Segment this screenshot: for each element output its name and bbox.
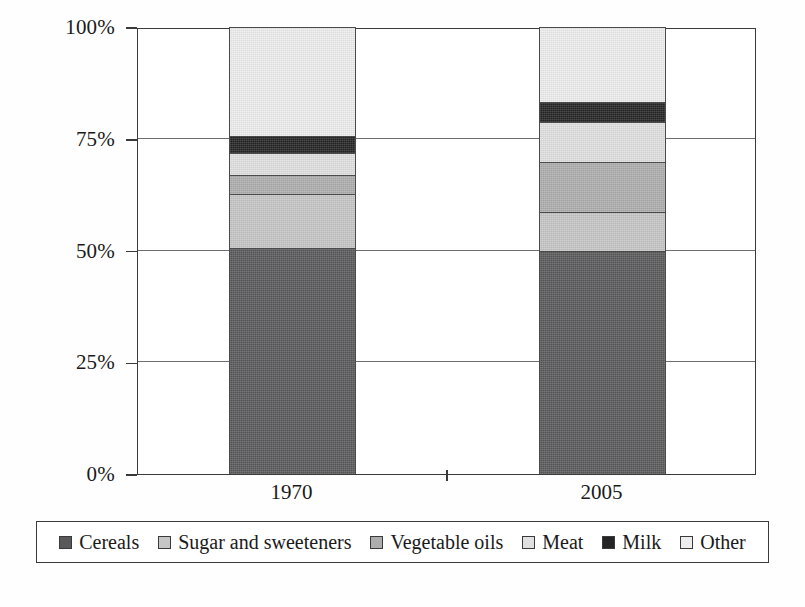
x-tick-label-1970: 1970 — [192, 481, 391, 503]
legend-swatch-icon — [59, 536, 72, 549]
y-axis: 0%25%50%75%100% — [0, 0, 137, 503]
bar-segment-1970-meat[interactable] — [229, 153, 356, 175]
legend-swatch-icon — [680, 536, 693, 549]
legend-swatch-icon — [158, 536, 171, 549]
bar-segment-2005-other[interactable] — [539, 27, 666, 102]
legend-item-cereals[interactable]: Cereals — [59, 532, 139, 552]
bar-1970[interactable] — [229, 27, 356, 474]
legend-swatch-icon — [602, 536, 615, 549]
bar-segment-1970-cereals[interactable] — [229, 248, 356, 474]
y-tick-mark-100 — [126, 27, 137, 29]
y-tick-label-100: 100% — [65, 17, 115, 38]
legend-label: Vegetable oils — [390, 532, 503, 552]
y-tick-label-25: 25% — [76, 352, 115, 373]
legend-label: Sugar and sweeteners — [178, 532, 351, 552]
bar-segment-2005-milk[interactable] — [539, 102, 666, 122]
legend-swatch-icon — [522, 536, 535, 549]
legend-label: Other — [700, 532, 746, 552]
legend-label: Cereals — [79, 532, 139, 552]
plot-area — [137, 28, 756, 475]
bar-segment-2005-cereals[interactable] — [539, 251, 666, 474]
x-tick-label-2005: 2005 — [502, 481, 701, 503]
bar-segment-2005-vegetable-oils[interactable] — [539, 162, 666, 212]
bar-segment-1970-other[interactable] — [229, 27, 356, 136]
x-axis-center-tick — [446, 470, 448, 481]
x-axis: 19702005 — [137, 481, 756, 511]
legend-item-milk[interactable]: Milk — [602, 532, 661, 552]
bar-segment-1970-sugar-and-sweeteners[interactable] — [229, 194, 356, 248]
legend-item-meat[interactable]: Meat — [522, 532, 583, 552]
y-tick-label-75: 75% — [76, 129, 115, 150]
bar-2005[interactable] — [539, 27, 666, 474]
y-tick-label-50: 50% — [76, 241, 115, 262]
y-tick-mark-50 — [126, 251, 137, 253]
legend-item-sugar-and-sweeteners[interactable]: Sugar and sweeteners — [158, 532, 351, 552]
bar-segment-1970-milk[interactable] — [229, 136, 356, 153]
chart-legend: CerealsSugar and sweetenersVegetable oil… — [36, 521, 769, 563]
bar-segment-2005-sugar-and-sweeteners[interactable] — [539, 212, 666, 251]
y-tick-mark-25 — [126, 363, 137, 365]
bar-segment-2005-meat[interactable] — [539, 122, 666, 162]
legend-label: Milk — [622, 532, 661, 552]
y-tick-mark-75 — [126, 139, 137, 141]
legend-label: Meat — [542, 532, 583, 552]
y-tick-label-0: 0% — [87, 464, 115, 485]
legend-swatch-icon — [370, 536, 383, 549]
legend-item-other[interactable]: Other — [680, 532, 746, 552]
y-tick-mark-0 — [126, 474, 137, 476]
bar-segment-1970-vegetable-oils[interactable] — [229, 175, 356, 194]
legend-item-vegetable-oils[interactable]: Vegetable oils — [370, 532, 503, 552]
chart-figure: 0%25%50%75%100% 19702005 CerealsSugar an… — [0, 0, 805, 607]
